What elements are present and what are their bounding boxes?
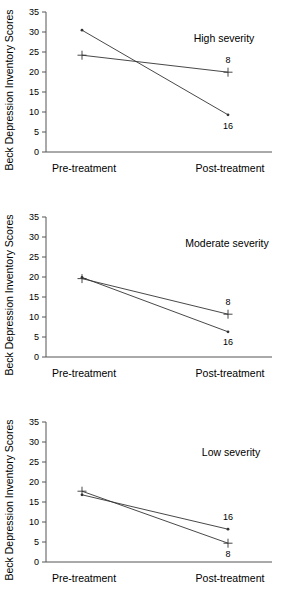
series-8-line bbox=[82, 491, 228, 543]
y-tick-label: 25 bbox=[29, 252, 39, 262]
y-tick-label: 10 bbox=[29, 107, 39, 117]
x-category-group: Pre-treatment Post-treatment bbox=[52, 367, 265, 379]
y-tick-label: 15 bbox=[29, 87, 39, 97]
series-8-group: 8 bbox=[78, 487, 233, 559]
y-tick-label: 25 bbox=[29, 457, 39, 467]
dot-marker-icon bbox=[81, 276, 84, 279]
series-label-16: 16 bbox=[223, 512, 233, 522]
y-tick-label: 5 bbox=[34, 537, 39, 547]
chart-panel-moderate-severity: Beck Depression Inventory Scores 0 5 10 … bbox=[0, 205, 287, 410]
x-category-group: Pre-treatment Post-treatment bbox=[52, 162, 265, 174]
dot-marker-icon bbox=[227, 113, 230, 116]
series-16-group: 16 bbox=[81, 29, 233, 131]
y-tick-group: 0 5 10 15 20 25 30 35 bbox=[29, 7, 46, 157]
y-tick-label: 25 bbox=[29, 47, 39, 57]
x-category-label-pre: Pre-treatment bbox=[52, 162, 116, 174]
y-tick-label: 35 bbox=[29, 7, 39, 17]
chart-panel-high-severity: Beck Depression Inventory Scores 0 5 10 … bbox=[0, 0, 287, 205]
y-axis-label-group: Beck Depression Inventory Scores bbox=[3, 419, 15, 580]
y-tick-label: 30 bbox=[29, 27, 39, 37]
y-tick-label: 30 bbox=[29, 232, 39, 242]
panel-title-moderate-severity: Moderate severity bbox=[185, 237, 269, 249]
chart-svg-low-severity: Beck Depression Inventory Scores 0 5 10 … bbox=[0, 410, 287, 616]
multi-panel-line-chart-figure: Beck Depression Inventory Scores 0 5 10 … bbox=[0, 0, 287, 616]
series-label-16: 16 bbox=[223, 337, 233, 347]
series-label-8: 8 bbox=[225, 55, 230, 65]
y-tick-label: 0 bbox=[34, 557, 39, 567]
panel-title-low-severity: Low severity bbox=[202, 446, 261, 458]
y-tick-label: 35 bbox=[29, 212, 39, 222]
chart-svg-moderate-severity: Beck Depression Inventory Scores 0 5 10 … bbox=[0, 205, 287, 410]
y-tick-label: 20 bbox=[29, 477, 39, 487]
y-axis-label: Beck Depression Inventory Scores bbox=[3, 9, 15, 170]
series-label-8: 8 bbox=[225, 549, 230, 559]
y-tick-label: 5 bbox=[34, 127, 39, 137]
series-16-line bbox=[82, 495, 228, 529]
x-category-label-pre: Pre-treatment bbox=[52, 572, 116, 584]
axis-group bbox=[46, 422, 272, 562]
chart-panel-low-severity: Beck Depression Inventory Scores 0 5 10 … bbox=[0, 410, 287, 615]
dot-marker-icon bbox=[81, 29, 84, 32]
y-tick-label: 20 bbox=[29, 67, 39, 77]
x-category-label-post: Post-treatment bbox=[196, 162, 265, 174]
y-tick-label: 5 bbox=[34, 332, 39, 342]
dot-marker-icon bbox=[227, 528, 230, 531]
series-16-group: 16 bbox=[81, 276, 233, 347]
y-tick-label: 15 bbox=[29, 292, 39, 302]
y-tick-label: 0 bbox=[34, 352, 39, 362]
x-category-label-post: Post-treatment bbox=[196, 367, 265, 379]
y-tick-label: 0 bbox=[34, 147, 39, 157]
x-category-label-post: Post-treatment bbox=[196, 572, 265, 584]
y-axis-label-group: Beck Depression Inventory Scores bbox=[3, 9, 15, 170]
y-tick-label: 10 bbox=[29, 312, 39, 322]
y-tick-label: 30 bbox=[29, 437, 39, 447]
panel-title-high-severity: High severity bbox=[194, 32, 255, 44]
series-label-16: 16 bbox=[223, 121, 233, 131]
y-tick-label: 35 bbox=[29, 417, 39, 427]
series-8-line bbox=[82, 55, 228, 72]
y-tick-label: 15 bbox=[29, 497, 39, 507]
series-8-group: 8 bbox=[78, 274, 233, 319]
chart-svg-high-severity: Beck Depression Inventory Scores 0 5 10 … bbox=[0, 0, 287, 205]
x-category-label-pre: Pre-treatment bbox=[52, 367, 116, 379]
dot-marker-icon bbox=[227, 330, 230, 333]
y-tick-group: 0 5 10 15 20 25 30 35 bbox=[29, 417, 46, 567]
y-tick-group: 0 5 10 15 20 25 30 35 bbox=[29, 212, 46, 362]
y-tick-label: 10 bbox=[29, 517, 39, 527]
y-axis-label-group: Beck Depression Inventory Scores bbox=[3, 214, 15, 375]
series-16-line bbox=[82, 277, 228, 331]
series-label-8: 8 bbox=[225, 297, 230, 307]
y-axis-label: Beck Depression Inventory Scores bbox=[3, 419, 15, 580]
series-8-line bbox=[82, 279, 228, 315]
x-category-group: Pre-treatment Post-treatment bbox=[52, 572, 265, 584]
y-axis-label: Beck Depression Inventory Scores bbox=[3, 214, 15, 375]
y-tick-label: 20 bbox=[29, 272, 39, 282]
